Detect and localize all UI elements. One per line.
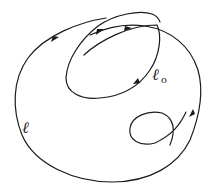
small-twist-loop [130,112,186,145]
label-ell0-main: ℓ [152,65,159,84]
arrow-inner-right [133,78,140,84]
curve-diagram: ℓ ℓ o [0,0,218,185]
label-ell: ℓ [22,118,29,137]
inner-curve-ell0 [66,13,160,99]
arrow-outer-right [189,109,195,117]
outer-curve-ell [15,18,201,182]
label-ell0-sub: o [161,74,167,85]
